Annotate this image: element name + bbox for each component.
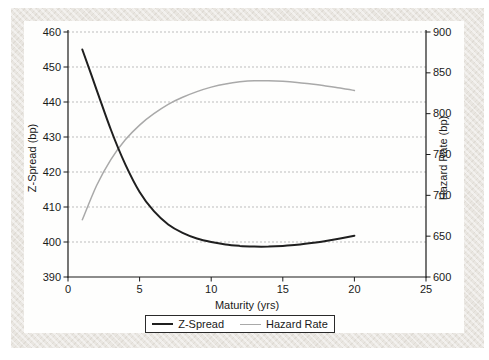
legend-label-z-spread: Z-Spread <box>178 316 224 332</box>
x-tick-label: 20 <box>348 283 360 295</box>
right-tick-label: 850 <box>433 66 451 78</box>
gridlines <box>68 32 426 242</box>
series-lines <box>82 50 354 247</box>
legend-item-z-spread: Z-Spread <box>152 316 224 332</box>
z-spread-line-sample-icon <box>152 323 173 325</box>
left-tick-label: 410 <box>43 201 61 213</box>
left-tick-label: 440 <box>43 96 61 108</box>
hazard-rate-line-sample-icon <box>240 324 261 325</box>
x-tick-label: 10 <box>205 283 217 295</box>
legend: Z-Spread Hazard Rate <box>145 315 335 333</box>
x-tick-label: 0 <box>65 283 71 295</box>
left-tick-label: 390 <box>43 271 61 283</box>
left-tick-label: 400 <box>43 236 61 248</box>
x-axis-title: Maturity (yrs) <box>215 299 279 311</box>
legend-label-hazard-rate: Hazard Rate <box>266 316 328 332</box>
right-tick-label: 600 <box>433 271 451 283</box>
right-tick-label: 900 <box>433 26 451 38</box>
left-axis-title: Z-Spread (bp) <box>26 124 38 192</box>
right-axis-title: Hazard Rate (bp) <box>437 116 449 200</box>
left-tick-label: 420 <box>43 166 61 178</box>
x-tick-label: 5 <box>137 283 143 295</box>
right-tick-label: 650 <box>433 230 451 242</box>
x-tick-label: 25 <box>420 283 432 295</box>
z-spread-line <box>82 50 354 247</box>
left-tick-label: 430 <box>43 131 61 143</box>
dual-axis-line-chart: 3904004104204304404504606006507007508008… <box>0 0 489 360</box>
x-tick-label: 15 <box>277 283 289 295</box>
legend-item-hazard-rate: Hazard Rate <box>240 316 328 332</box>
axes <box>64 30 431 282</box>
left-tick-label: 460 <box>43 26 61 38</box>
tick-labels: 3904004104204304404504606006507007508008… <box>43 26 452 296</box>
left-tick-label: 450 <box>43 61 61 73</box>
